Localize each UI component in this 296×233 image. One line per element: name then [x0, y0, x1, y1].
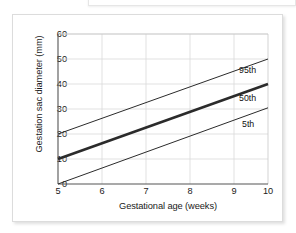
series-line-5th [58, 108, 268, 184]
series-label-95th: 95th [239, 65, 256, 75]
upper-panel-edge [88, 0, 296, 6]
chart-card: Gestation sac diameter (mm) 60 50 40 30 … [12, 14, 283, 222]
plot-area-wrapper: Gestation sac diameter (mm) 60 50 40 30 … [13, 15, 284, 223]
series-line-50th [58, 84, 268, 159]
series-label-5th: 5th [242, 119, 254, 129]
x-axis-title: Gestational age (weeks) [57, 201, 279, 211]
series-label-50th: 50th [239, 93, 256, 103]
